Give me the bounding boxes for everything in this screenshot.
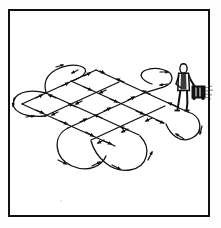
mower-wheel (201, 97, 204, 100)
loop-far-right-curve (166, 112, 200, 140)
arrow-a (98, 140, 104, 143)
pass-a-2 (45, 82, 119, 116)
person-pushing-mower (175, 63, 214, 111)
mower-body (192, 86, 205, 98)
pass-a-4 (91, 106, 165, 140)
arrow-loop (148, 152, 152, 160)
loop-top-left-curve (45, 65, 85, 92)
lawn-mowing-illustration (0, 0, 221, 228)
arrow-loop (26, 116, 34, 117)
push-mower-icon (191, 80, 214, 100)
mower-discharge-spray (205, 86, 213, 99)
arrow-b (95, 115, 102, 118)
figure-container (0, 0, 221, 228)
arrow-b (60, 121, 67, 124)
arrow-b (110, 99, 117, 102)
arrow-b (104, 141, 111, 144)
loop-bottom-right-curve (91, 136, 147, 170)
person-left-leg (177, 91, 180, 111)
pass-set-a (22, 70, 165, 140)
arrow-a (146, 118, 152, 121)
path-pattern-group (13, 65, 202, 170)
arrow-loop (72, 70, 78, 73)
pass-set-b (22, 70, 188, 146)
person-right-leg (187, 91, 188, 111)
person-head-icon (180, 64, 187, 73)
turn-loops-group (13, 65, 200, 170)
arrow-b (84, 87, 91, 90)
person-torso-shading (180, 74, 186, 90)
arrow-b (121, 127, 128, 130)
arrowheads-loops (13, 65, 202, 169)
mower-wheel (192, 97, 195, 100)
